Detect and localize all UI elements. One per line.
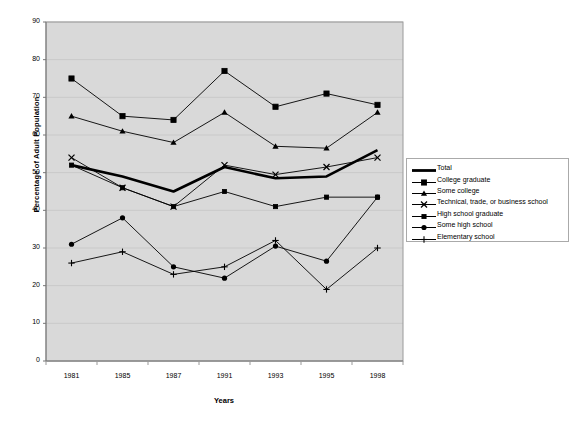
y-tick-label: 70 xyxy=(14,92,40,99)
legend-marker-icon xyxy=(411,174,437,185)
y-tick-label: 40 xyxy=(14,205,40,212)
legend-item: Elementary school xyxy=(411,230,564,241)
x-tick-label: 1981 xyxy=(52,372,92,379)
legend-item-label: High school graduate xyxy=(437,208,503,219)
legend-item: Some high school xyxy=(411,219,564,230)
legend-item-label: Technical, trade, or business school xyxy=(437,196,548,207)
x-tick-label: 1998 xyxy=(358,372,398,379)
y-tick-label: 10 xyxy=(14,318,40,325)
y-tick-label: 60 xyxy=(14,130,40,137)
y-axis-label: Percentage of Adult Population xyxy=(32,55,41,255)
x-tick-label: 1991 xyxy=(205,372,245,379)
legend-item: Some college xyxy=(411,185,564,196)
legend-marker-icon xyxy=(411,208,437,219)
legend-item: High school graduate xyxy=(411,208,564,219)
legend-marker-icon xyxy=(411,185,437,196)
legend-item-label: Some high school xyxy=(437,219,493,230)
legend-marker-icon xyxy=(411,231,437,242)
legend-item-label: Total xyxy=(437,162,452,173)
x-tick-label: 1995 xyxy=(307,372,347,379)
legend-item-label: College graduate xyxy=(437,174,490,185)
legend-item-label: Some college xyxy=(437,185,479,196)
line-chart: Percentage of Adult Population Years 908… xyxy=(0,0,578,421)
y-tick-label: 0 xyxy=(14,356,40,363)
y-tick-label: 30 xyxy=(14,243,40,250)
y-tick-label: 80 xyxy=(14,55,40,62)
y-tick-label: 50 xyxy=(14,168,40,175)
legend-item: College graduate xyxy=(411,173,564,184)
legend-marker-icon xyxy=(411,196,437,207)
x-tick-label: 1993 xyxy=(256,372,296,379)
legend-item: Technical, trade, or business school xyxy=(411,196,564,207)
legend-item: Total xyxy=(411,162,564,173)
x-axis-label: Years xyxy=(45,396,403,405)
y-tick-label: 20 xyxy=(14,281,40,288)
y-tick-label: 90 xyxy=(14,17,40,24)
x-tick-label: 1987 xyxy=(154,372,194,379)
legend-item-label: Elementary school xyxy=(437,231,495,242)
chart-legend: TotalCollege graduateSome collegeTechnic… xyxy=(406,158,569,242)
x-tick-label: 1985 xyxy=(103,372,143,379)
legend-marker-icon xyxy=(411,219,437,230)
legend-marker-icon xyxy=(411,162,437,173)
